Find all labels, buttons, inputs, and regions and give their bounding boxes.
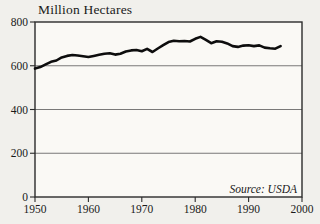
y-tick-label: 600 — [11, 60, 29, 72]
y-tick-label: 400 — [11, 104, 29, 116]
y-axis-labels: 0200400600800 — [11, 16, 29, 203]
grain-area-chart: 0200400600800 195019601970198019902000 M… — [0, 0, 320, 224]
x-tick-label: 1990 — [237, 203, 260, 215]
chart-title: Million Hectares — [38, 2, 132, 18]
x-axis-ticks — [35, 197, 302, 202]
source-note: Source: USDA — [229, 183, 297, 195]
x-tick-label: 1980 — [184, 203, 207, 215]
x-tick-label: 2000 — [291, 203, 314, 215]
y-tick-label: 0 — [22, 191, 28, 203]
x-tick-label: 1970 — [130, 203, 153, 215]
x-axis-labels: 195019601970198019902000 — [24, 203, 314, 215]
y-tick-label: 800 — [11, 16, 29, 28]
y-axis-ticks — [30, 22, 35, 197]
y-tick-label: 200 — [11, 147, 29, 159]
x-tick-label: 1950 — [24, 203, 47, 215]
x-tick-label: 1960 — [77, 203, 100, 215]
